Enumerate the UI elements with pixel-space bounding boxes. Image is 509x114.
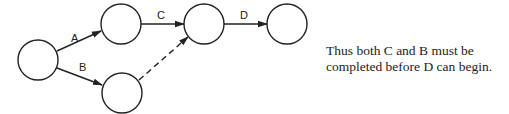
node-1	[18, 40, 58, 80]
node-4	[184, 4, 224, 44]
edge-label-b: B	[79, 61, 86, 73]
caption: Thus both C and B must be completed befo…	[326, 43, 492, 75]
edge-dummy	[139, 37, 188, 80]
node-2	[101, 4, 141, 44]
node-5	[267, 4, 307, 44]
node-3	[102, 73, 142, 113]
edge-label-a: A	[71, 32, 79, 44]
caption-line-2: completed before D can begin.	[326, 59, 492, 75]
edge-label-c: C	[157, 9, 165, 21]
caption-line-1: Thus both C and B must be	[326, 43, 492, 59]
edge-a	[57, 31, 101, 51]
edge-label-d: D	[240, 9, 248, 21]
